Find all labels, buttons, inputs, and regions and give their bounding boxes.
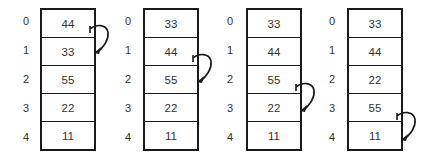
array-cell: 22 [349, 66, 401, 94]
index-label: 0 [224, 15, 236, 27]
array-cell: 55 [145, 66, 197, 94]
array-cell: 44 [248, 38, 300, 66]
array-cell: 33 [42, 38, 94, 66]
index-label: 1 [20, 44, 32, 56]
index-label: 2 [224, 73, 236, 85]
index-label: 4 [326, 131, 338, 143]
swap-arrow-icon [395, 109, 425, 149]
array-cell: 11 [349, 122, 401, 149]
array-cell: 11 [42, 122, 94, 149]
array-cell: 33 [248, 10, 300, 38]
array-cell: 44 [42, 10, 94, 38]
index-label: 1 [326, 44, 338, 56]
array-cell: 11 [248, 122, 300, 149]
index-label: 4 [20, 131, 32, 143]
array-cell: 55 [349, 94, 401, 122]
array-cell: 33 [145, 10, 197, 38]
array-cell: 44 [349, 38, 401, 66]
index-label: 4 [122, 131, 134, 143]
array-cell: 55 [248, 66, 300, 94]
index-label: 3 [20, 102, 32, 114]
array-cell: 33 [349, 10, 401, 38]
index-label: 0 [122, 15, 134, 27]
swap-arrow-icon [88, 22, 118, 62]
array-cell: 44 [145, 38, 197, 66]
array-cell: 55 [42, 66, 94, 94]
index-label: 3 [122, 102, 134, 114]
array-cell: 22 [248, 94, 300, 122]
index-label: 0 [326, 15, 338, 27]
index-label: 2 [326, 73, 338, 85]
index-label: 1 [224, 44, 236, 56]
index-label: 4 [224, 131, 236, 143]
index-label: 2 [122, 73, 134, 85]
array-cell: 11 [145, 122, 197, 149]
array-cell: 22 [145, 94, 197, 122]
index-label: 0 [20, 15, 32, 27]
index-label: 3 [224, 102, 236, 114]
index-label: 1 [122, 44, 134, 56]
index-label: 3 [326, 102, 338, 114]
swap-arrow-icon [294, 80, 324, 120]
array-cell: 22 [42, 94, 94, 122]
index-label: 2 [20, 73, 32, 85]
swap-arrow-icon [191, 51, 221, 91]
